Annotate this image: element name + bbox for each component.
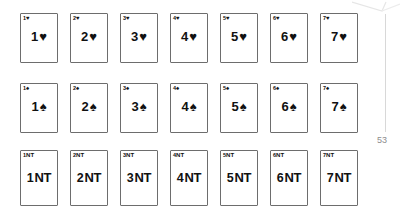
- bid-card-corner-suit-icon: ♠: [276, 85, 279, 91]
- bid-card-3-hearts[interactable]: 3♥3♥: [120, 13, 158, 63]
- bid-card-corner-label: 3♠: [123, 85, 129, 92]
- bid-card-corner-label: 6NT: [273, 152, 284, 159]
- bid-card-center-level: 6: [281, 29, 288, 44]
- bid-card-7-no-trump[interactable]: 7NT7NT: [320, 150, 358, 206]
- bid-card-center-suit-icon: NT: [84, 170, 101, 185]
- bid-card-corner-label: 6♠: [273, 85, 279, 92]
- bid-card-center-level: 7: [331, 29, 338, 44]
- bid-card-corner-label: 5♥: [223, 15, 230, 22]
- bid-card-center-suit-icon: NT: [184, 170, 201, 185]
- bid-card-center-label: 2♠: [71, 100, 107, 113]
- bid-card-center-suit-icon: ♠: [190, 99, 197, 114]
- bid-card-center-level: 5: [227, 171, 234, 185]
- bid-card-corner-suit-icon: ♥: [176, 15, 180, 21]
- bid-card-corner-label: 4♠: [173, 85, 179, 92]
- bid-card-corner-label: 5NT: [223, 152, 234, 159]
- bid-card-6-no-trump[interactable]: 6NT6NT: [270, 150, 308, 206]
- bid-card-center-level: 2: [81, 99, 88, 114]
- bid-card-6-hearts[interactable]: 6♥6♥: [270, 13, 308, 63]
- bid-card-5-hearts[interactable]: 5♥5♥: [220, 13, 258, 63]
- bid-card-1-no-trump[interactable]: 1NT1NT: [20, 150, 58, 206]
- bid-card-center-label: 3♠: [121, 100, 157, 113]
- bid-card-2-spades[interactable]: 2♠2♠: [70, 83, 108, 133]
- bid-card-center-level: 4: [181, 99, 188, 114]
- bid-card-corner-suit-icon: ♠: [126, 85, 129, 91]
- bid-card-center-label: 1NT: [21, 171, 57, 185]
- bid-card-1-spades[interactable]: 1♠1♠: [20, 83, 58, 133]
- bid-card-4-no-trump[interactable]: 4NT4NT: [170, 150, 208, 206]
- bid-card-center-label: 7♠: [321, 100, 357, 113]
- bid-card-7-hearts[interactable]: 7♥7♥: [320, 13, 358, 63]
- bid-card-corner-suit-icon: ♥: [226, 15, 230, 21]
- bid-card-center-label: 3♥: [121, 30, 157, 43]
- scan-edge-curve-artifact: [352, 0, 400, 20]
- bid-card-center-level: 4: [181, 29, 188, 44]
- bid-card-center-suit-icon: NT: [284, 170, 301, 185]
- bid-card-center-suit-icon: NT: [134, 170, 151, 185]
- bid-card-corner-suit-icon: NT: [176, 152, 184, 158]
- bid-card-1-hearts[interactable]: 1♥1♥: [20, 13, 58, 63]
- bid-card-center-label: 5♠: [221, 100, 257, 113]
- bid-card-corner-label: 3♥: [123, 15, 130, 22]
- bid-card-corner-label: 7NT: [323, 152, 334, 159]
- bid-card-center-suit-icon: ♥: [39, 29, 47, 44]
- bid-card-center-suit-icon: ♠: [340, 99, 347, 114]
- bid-card-center-level: 1: [27, 171, 34, 185]
- bid-card-corner-suit-icon: ♠: [326, 85, 329, 91]
- bid-card-corner-suit-icon: ♥: [276, 15, 280, 21]
- bid-card-center-level: 6: [281, 99, 288, 114]
- bid-card-center-label: 6NT: [271, 171, 307, 185]
- bid-card-4-hearts[interactable]: 4♥4♥: [170, 13, 208, 63]
- bid-card-center-level: 1: [31, 29, 38, 44]
- bid-card-center-level: 7: [327, 171, 334, 185]
- bid-card-7-spades[interactable]: 7♠7♠: [320, 83, 358, 133]
- bid-card-corner-suit-icon: ♠: [176, 85, 179, 91]
- scan-edge-line-artifact: [385, 14, 386, 132]
- bid-card-corner-suit-icon: ♠: [26, 85, 29, 91]
- bid-card-center-label: 5NT: [221, 171, 257, 185]
- bid-card-5-no-trump[interactable]: 5NT5NT: [220, 150, 258, 206]
- bid-card-center-label: 7♥: [321, 30, 357, 43]
- bid-card-corner-suit-icon: NT: [26, 152, 34, 158]
- bid-card-corner-label: 7♠: [323, 85, 329, 92]
- bid-card-corner-label: 2NT: [73, 152, 84, 159]
- bid-card-center-suit-icon: ♠: [90, 99, 97, 114]
- bid-card-4-spades[interactable]: 4♠4♠: [170, 83, 208, 133]
- bid-card-corner-label: 1NT: [23, 152, 34, 159]
- bid-card-center-suit-icon: ♥: [89, 29, 97, 44]
- bid-card-center-level: 6: [277, 171, 284, 185]
- bid-card-center-label: 4♠: [171, 100, 207, 113]
- bid-card-corner-suit-icon: NT: [126, 152, 134, 158]
- bid-card-center-label: 2♥: [71, 30, 107, 43]
- bid-card-5-spades[interactable]: 5♠5♠: [220, 83, 258, 133]
- bid-card-center-level: 3: [127, 171, 134, 185]
- bid-card-corner-suit-icon: NT: [326, 152, 334, 158]
- bid-card-center-level: 1: [31, 99, 38, 114]
- bid-card-corner-label: 2♥: [73, 15, 80, 22]
- bid-card-corner-label: 1♠: [23, 85, 29, 92]
- bid-card-center-suit-icon: ♠: [240, 99, 247, 114]
- bid-card-center-suit-icon: ♥: [289, 29, 297, 44]
- bid-card-corner-label: 4♥: [173, 15, 180, 22]
- bid-card-2-hearts[interactable]: 2♥2♥: [70, 13, 108, 63]
- bid-card-center-label: 4NT: [171, 171, 207, 185]
- bid-card-center-label: 2NT: [71, 171, 107, 185]
- bid-card-corner-label: 4NT: [173, 152, 184, 159]
- bidding-card-page: 1♥1♥2♥2♥3♥3♥4♥4♥5♥5♥6♥6♥7♥7♥ 1♠1♠2♠2♠3♠3…: [0, 0, 400, 218]
- bid-card-center-suit-icon: ♠: [140, 99, 147, 114]
- bid-card-row-hearts: 1♥1♥2♥2♥3♥3♥4♥4♥5♥5♥6♥6♥7♥7♥: [20, 13, 358, 63]
- bid-card-corner-label: 7♥: [323, 15, 330, 22]
- bid-card-center-level: 2: [77, 171, 84, 185]
- bid-card-corner-suit-icon: ♠: [226, 85, 229, 91]
- bid-card-corner-suit-icon: ♥: [326, 15, 330, 21]
- bid-card-center-level: 3: [131, 29, 138, 44]
- bid-card-3-no-trump[interactable]: 3NT3NT: [120, 150, 158, 206]
- bid-card-2-no-trump[interactable]: 2NT2NT: [70, 150, 108, 206]
- bid-card-corner-label: 5♠: [223, 85, 229, 92]
- bid-card-center-label: 3NT: [121, 171, 157, 185]
- bid-card-corner-suit-icon: ♠: [76, 85, 79, 91]
- bid-card-6-spades[interactable]: 6♠6♠: [270, 83, 308, 133]
- bid-card-3-spades[interactable]: 3♠3♠: [120, 83, 158, 133]
- bid-card-center-suit-icon: ♠: [290, 99, 297, 114]
- bid-card-center-suit-icon: NT: [234, 170, 251, 185]
